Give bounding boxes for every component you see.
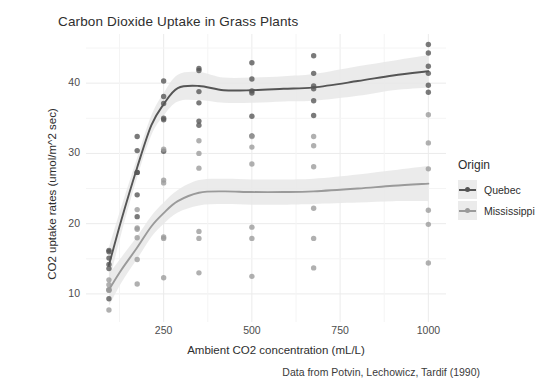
confidence-ribbons [109,55,428,306]
plot-canvas [86,34,446,322]
data-point [106,277,111,282]
data-point [426,140,431,145]
chart-figure: Carbon Dioxide Uptake in Grass Plants CO… [0,0,557,389]
legend: Origin QuebecMississippi [458,158,554,222]
data-point [426,208,431,213]
data-point [311,134,316,139]
data-point [426,166,431,171]
data-point [196,66,201,71]
y-axis-ticks: 10203040 [44,34,80,322]
data-point [106,248,111,253]
data-point [196,165,201,170]
data-point [311,143,316,148]
x-tick-label: 500 [243,324,261,336]
data-point [311,206,316,211]
legend-item[interactable]: Quebec [458,180,554,199]
data-point [426,64,431,69]
data-point [196,123,201,128]
data-point [196,229,201,234]
data-point [196,100,201,105]
data-point [249,274,254,279]
y-tick-label: 20 [68,217,80,229]
data-point [161,180,166,185]
data-point [311,265,316,270]
data-point [311,113,316,118]
legend-point-icon [465,187,470,192]
y-tick-label: 10 [68,287,80,299]
data-point [311,71,316,76]
data-point [161,275,166,280]
data-point [249,113,254,118]
data-point [134,257,139,262]
data-point [249,60,254,65]
data-point [196,270,201,275]
x-tick-label: 750 [331,324,349,336]
data-point [426,50,431,55]
data-point [249,144,254,149]
data-point [134,207,139,212]
legend-point-icon [465,208,470,213]
x-tick-label: 250 [155,324,173,336]
legend-item-label: Mississippi [484,205,535,217]
data-point [249,224,254,229]
y-tick-label: 40 [68,76,80,88]
data-point [249,76,254,81]
data-point [311,164,316,169]
data-point [426,42,431,47]
data-point [134,214,139,219]
data-point [134,225,139,230]
data-point [249,134,254,139]
chart-caption: Data from Potvin, Lechowicz, Tardif (199… [282,366,480,378]
data-point [426,112,431,117]
legend-item[interactable]: Mississippi [458,201,554,220]
data-point [134,148,139,153]
data-point [249,236,254,241]
y-tick-label: 30 [68,146,80,158]
data-point [196,89,201,94]
x-axis-title: Ambient CO2 concentration (mL/L) [86,344,466,356]
data-point [106,307,111,312]
data-point [161,94,166,99]
data-point [161,116,166,121]
data-point [249,161,254,166]
data-point [426,90,431,95]
data-point [196,151,201,156]
legend-key-icon [458,201,477,220]
plot-panel [86,34,446,322]
x-axis-ticks: 2505007501000 [86,324,446,342]
data-point [196,138,201,143]
data-point [426,222,431,227]
data-point [161,147,166,152]
data-point [161,236,166,241]
legend-item-label: Quebec [484,184,521,196]
data-point [161,78,166,83]
legend-title: Origin [458,158,554,172]
legend-items: QuebecMississippi [458,180,554,220]
legend-key-icon [458,180,477,199]
page-title: Carbon Dioxide Uptake in Grass Plants [58,14,298,29]
data-point [426,260,431,265]
data-point [311,236,316,241]
x-tick-label: 1000 [417,324,440,336]
data-point [311,53,316,58]
data-point [134,134,139,139]
data-point [106,296,111,301]
data-point [134,281,139,286]
data-point [134,192,139,197]
data-point [134,235,139,240]
data-point [311,98,316,103]
data-point [426,83,431,88]
data-point [196,236,201,241]
